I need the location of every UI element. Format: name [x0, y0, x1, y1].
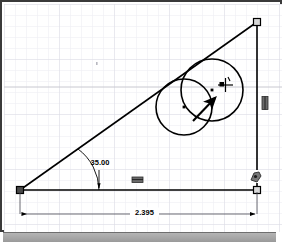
sketch-svg[interactable]: 35.00 2.395 [4, 4, 282, 232]
background-grid [4, 4, 282, 232]
left-circle-center-point[interactable] [183, 106, 186, 109]
horizontal-relation-icon[interactable] [131, 175, 144, 184]
right-circle-center-point[interactable] [211, 89, 214, 92]
window-frame: 35.00 2.395 [0, 0, 282, 232]
coincident-relation-icon[interactable] [249, 170, 263, 183]
status-bar[interactable] [3, 232, 276, 242]
top-right-endpoint[interactable] [254, 19, 261, 26]
sketch-canvas[interactable]: 35.00 2.395 [4, 4, 282, 232]
stray-point-marker [96, 62, 98, 65]
cad-sketch-window[interactable]: 35.00 2.395 [0, 0, 282, 242]
vertical-relation-icon[interactable] [260, 95, 270, 111]
angle-dimension-text[interactable]: 35.00 [91, 158, 110, 167]
length-dimension-text[interactable]: 2.395 [135, 208, 154, 217]
